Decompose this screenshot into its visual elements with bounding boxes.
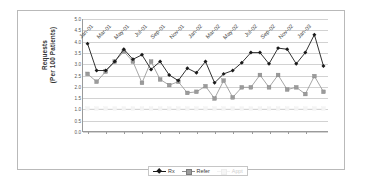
data-point	[231, 107, 235, 111]
data-point	[222, 107, 226, 111]
x-tick	[160, 131, 161, 134]
data-point	[240, 85, 244, 89]
data-point	[149, 60, 153, 64]
data-point	[86, 107, 90, 111]
gridline	[83, 132, 328, 133]
data-point	[267, 85, 271, 89]
data-point	[249, 107, 253, 111]
x-tick	[215, 131, 216, 134]
data-point	[222, 79, 226, 83]
data-point	[213, 107, 217, 111]
data-point	[312, 33, 316, 37]
data-point	[213, 97, 217, 101]
data-point	[167, 83, 171, 87]
x-tick	[142, 131, 143, 134]
legend-item-rx[interactable]: Rx	[153, 168, 175, 174]
y-tick-label: 0.0	[75, 130, 81, 135]
y-tick-label: 3.0	[75, 62, 81, 67]
y-tick-label: 1.5	[75, 96, 81, 101]
y-tick-label: 0.5	[75, 118, 81, 123]
data-point	[113, 107, 117, 111]
data-point	[86, 72, 90, 76]
data-point	[122, 107, 126, 111]
x-tick	[179, 131, 180, 134]
data-point	[131, 107, 135, 111]
series-refer	[86, 50, 326, 101]
data-point	[276, 46, 280, 50]
x-tick	[88, 131, 89, 134]
data-point	[140, 53, 144, 57]
plot-inner: 0.00.51.01.52.02.53.03.54.04.55.0 Jan-01…	[82, 19, 328, 132]
data-point	[95, 107, 99, 111]
data-point	[249, 85, 253, 89]
appt-series-marker-icon	[217, 168, 230, 174]
legend-item-appt[interactable]: Appt	[217, 168, 243, 174]
data-point	[285, 107, 289, 111]
series-rx	[86, 33, 326, 85]
data-point	[258, 107, 262, 111]
data-point	[158, 107, 162, 111]
data-point	[140, 107, 144, 111]
data-point	[276, 73, 280, 77]
x-tick	[270, 131, 271, 134]
data-point	[176, 107, 180, 111]
x-tick	[197, 131, 198, 134]
data-point	[312, 74, 316, 78]
y-tick-label: 2.0	[75, 84, 81, 89]
y-axis-title: Requests (Per 100 Patients)	[41, 12, 57, 98]
legend-label-appt: Appt	[232, 168, 243, 174]
data-point	[185, 107, 189, 111]
series-appt	[86, 107, 326, 111]
legend-item-refer[interactable]: Refer	[182, 168, 210, 174]
series-layer	[83, 19, 328, 131]
data-point	[104, 107, 108, 111]
data-point	[195, 107, 199, 111]
data-point	[149, 107, 153, 111]
data-point	[285, 88, 289, 92]
data-point	[258, 73, 262, 77]
refer-series-marker-icon	[182, 168, 195, 174]
legend-label-rx: Rx	[168, 168, 175, 174]
x-tick	[288, 131, 289, 134]
y-tick-label: 3.5	[75, 50, 81, 55]
y-tick-label: 1.0	[75, 107, 81, 112]
data-point	[322, 90, 326, 94]
x-tick	[306, 131, 307, 134]
chart-legend: Rx Refer Appt	[148, 166, 248, 176]
data-point	[185, 91, 189, 95]
data-point	[204, 84, 208, 88]
data-point	[167, 107, 171, 111]
data-point	[240, 107, 244, 111]
x-tick	[106, 131, 107, 134]
data-point	[322, 107, 326, 111]
chart-frame: Requests (Per 100 Patients) 0.00.51.01.5…	[17, 10, 345, 170]
y-tick-label: 5.0	[75, 17, 81, 22]
data-point	[285, 47, 289, 51]
data-point	[267, 107, 271, 111]
data-point	[86, 42, 90, 46]
data-point	[231, 96, 235, 100]
data-point	[95, 80, 99, 84]
x-tick	[233, 131, 234, 134]
series-line	[88, 35, 324, 83]
data-point	[204, 107, 208, 111]
data-point	[195, 90, 199, 94]
data-point	[321, 64, 325, 68]
data-point	[140, 81, 144, 85]
legend-label-refer: Refer	[197, 168, 210, 174]
x-tick	[252, 131, 253, 134]
data-point	[294, 85, 298, 89]
chart-figure: Requests (Per 100 Patients) 0.00.51.01.5…	[0, 0, 366, 180]
x-tick	[124, 131, 125, 134]
data-point	[95, 69, 99, 73]
data-point	[276, 107, 280, 111]
data-point	[294, 107, 298, 111]
data-point	[158, 78, 162, 82]
plot-area: 0.00.51.01.52.02.53.03.54.04.55.0 Jan-01…	[64, 19, 328, 132]
data-point	[303, 92, 307, 96]
data-point	[312, 107, 316, 111]
rx-series-marker-icon	[153, 168, 166, 174]
y-tick-label: 2.5	[75, 73, 81, 78]
data-point	[303, 107, 307, 111]
